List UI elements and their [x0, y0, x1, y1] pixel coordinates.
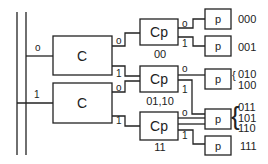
- cp-box-01-10-label: Cp: [150, 71, 168, 87]
- bus-label-1: 1: [34, 89, 40, 100]
- cp-box-11-caption: 11: [154, 141, 165, 153]
- p-code-001: 001: [238, 41, 256, 53]
- p-code-000: 000: [238, 13, 256, 25]
- p-box-111-label: p: [215, 140, 221, 152]
- p-code-111: 111: [240, 140, 257, 152]
- cp0-out0-label: o: [182, 18, 188, 29]
- binary-tree-diagram: o 1 C C o 1 o 1 Cp 00 Cp 01,10 Cp 11 o 1…: [0, 0, 268, 164]
- p-code-100: 100: [238, 79, 256, 91]
- p-box-011-101-110-label: p: [215, 113, 221, 125]
- c1-out1-label: 1: [116, 115, 122, 126]
- cp-box-00-label: Cp: [150, 24, 168, 40]
- cp1-out1-label: 1: [182, 84, 188, 95]
- cp-box-11-label: Cp: [150, 118, 168, 134]
- brace-icon: {: [232, 69, 236, 81]
- p-box-000-label: p: [215, 13, 221, 25]
- bus-label-0: o: [35, 42, 41, 53]
- cp2-out0-label: o: [182, 107, 188, 118]
- c-box-top-label: C: [77, 48, 87, 64]
- cp1-out0-label: o: [182, 63, 188, 74]
- p-code-110: 110: [238, 122, 256, 134]
- p-box-001-label: p: [215, 40, 221, 52]
- c-box-bottom-label: C: [77, 95, 87, 111]
- c0-out0-label: o: [116, 35, 122, 46]
- c1-out0-label: o: [116, 82, 122, 93]
- cp2-out1-label: 1: [182, 130, 188, 141]
- p-box-010-100-label: p: [215, 73, 221, 85]
- c0-out1-label: 1: [116, 68, 122, 79]
- cp-box-00-caption: 00: [154, 48, 166, 60]
- cp-box-01-10-caption: 01,10: [146, 95, 174, 107]
- cp0-out1-label: 1: [182, 38, 188, 49]
